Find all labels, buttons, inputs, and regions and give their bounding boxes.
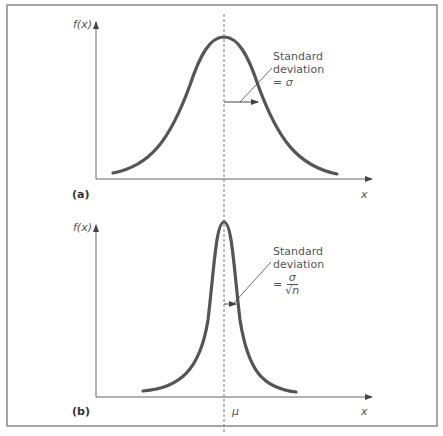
panel-a-y-label: f(x) [73, 18, 92, 31]
annotation-line: deviation [273, 258, 324, 271]
figure-canvas [0, 0, 443, 436]
mean-label: μ [232, 405, 239, 418]
fraction-denominator: √n [285, 285, 299, 297]
fraction: σ √n [285, 272, 299, 297]
panel-a-annotation: Standard deviation = σ [273, 50, 324, 89]
panel-a-x-label: x [361, 188, 368, 201]
panel-b-x-label: x [361, 405, 368, 418]
panel-b-y-label: f(x) [73, 221, 92, 234]
panel-a-label: (a) [72, 188, 89, 201]
annotation-line: deviation [273, 63, 324, 76]
panel-b-annotation: Standard deviation = σ √n [273, 245, 324, 297]
figure-border [7, 5, 437, 426]
annotation-sigma: = σ [273, 76, 324, 89]
annotation-line: Standard [273, 50, 324, 63]
equals-sign: = [273, 278, 282, 291]
annotation-fraction-row: = σ √n [273, 272, 324, 297]
annotation-line: Standard [273, 245, 324, 258]
annotation-leader-b [233, 262, 271, 304]
annotation-leader-a [240, 68, 272, 102]
panel-a-axes [96, 22, 372, 179]
panel-b-label: (b) [72, 405, 90, 418]
